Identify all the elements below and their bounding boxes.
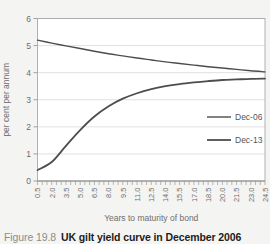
x-axis-title: Years to maturity of bond <box>104 213 198 223</box>
y-axis-title: per cent per annum <box>1 63 11 137</box>
x-tick-label: 20.0 <box>218 188 227 203</box>
y-tick-label: 2 <box>26 122 31 132</box>
x-tick-label: 8.0 <box>104 188 113 198</box>
x-tick-label: 2.0 <box>48 188 57 198</box>
figure-number: Figure 19.8 <box>4 231 56 243</box>
y-tick-label: 3 <box>26 95 31 105</box>
legend-label-dec-13: Dec-13 <box>235 135 263 145</box>
y-tick-label: 4 <box>26 68 31 78</box>
x-tick-label: 18.5 <box>204 188 213 203</box>
x-tick-label: 0.5 <box>33 188 42 198</box>
x-tick-label: 15.5 <box>175 188 184 203</box>
legend-label-dec-06: Dec-06 <box>235 112 263 122</box>
figure-19-8-panel: 01234560.52.03.55.06.58.09.511.012.514.0… <box>0 0 270 244</box>
x-tick-label: 23.0 <box>247 187 256 202</box>
x-tick-label: 5.0 <box>76 188 85 198</box>
y-tick-label: 0 <box>26 176 31 186</box>
figure-title: UK gilt yield curve in December 2006 <box>61 231 241 243</box>
y-tick-label: 1 <box>26 149 31 159</box>
x-tick-label: 17.0 <box>190 188 199 203</box>
y-tick-label: 5 <box>26 41 31 51</box>
x-tick-label: 12.5 <box>147 188 156 203</box>
x-tick-label: 21.5 <box>232 188 241 203</box>
yield-curve-chart: 01234560.52.03.55.06.58.09.511.012.514.0… <box>0 0 270 228</box>
figure-caption: Figure 19.8UK gilt yield curve in Decemb… <box>4 230 268 244</box>
x-tick-label: 3.5 <box>62 188 71 198</box>
x-tick-label: 11.0 <box>133 188 142 202</box>
x-tick-label: 14.0 <box>161 188 170 203</box>
x-tick-label: 9.5 <box>119 188 128 198</box>
x-tick-label: 6.5 <box>90 188 99 198</box>
y-tick-label: 6 <box>26 14 31 24</box>
x-tick-label: 24.5 <box>261 188 270 203</box>
